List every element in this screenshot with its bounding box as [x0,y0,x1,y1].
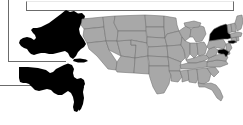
state-alabama [188,69,198,83]
map-figure [0,0,243,125]
state-texas [149,66,171,94]
new-york-silhouette-path [19,10,86,59]
state-oregon [83,27,106,43]
state-new-mexico [134,56,149,74]
state-montana [114,15,146,31]
state-oklahoma [148,56,169,66]
maryland-silhouette-path [19,64,85,113]
state-louisiana [169,71,182,82]
state-indiana [190,43,198,58]
state-massachusetts [230,32,242,38]
state-maine [235,15,243,31]
state-nebraska [147,37,167,47]
state-florida [198,83,223,101]
leader-line-vertical [8,0,9,62]
state-south-dakota [146,27,165,38]
state-kansas [148,46,168,57]
state-ohio [197,42,207,56]
state-arizona [116,56,135,73]
state-michigan-up [184,21,201,28]
state-north-dakota [145,15,164,27]
us-states-map [78,14,243,106]
